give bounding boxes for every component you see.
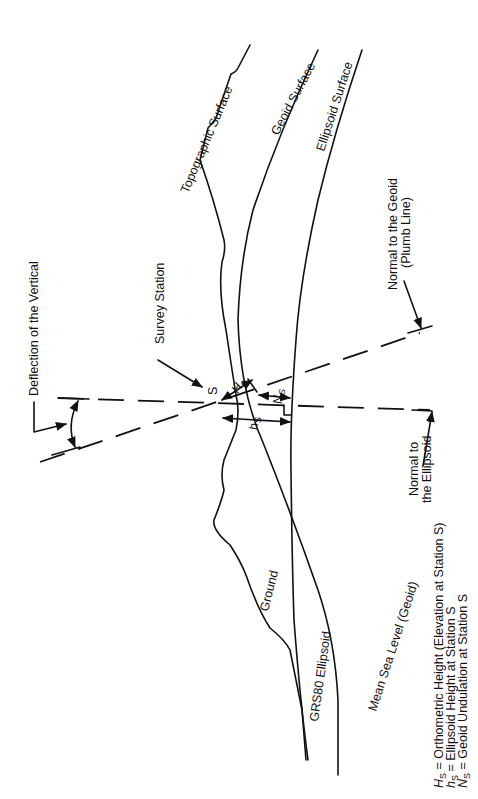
Ns-label: NS (271, 389, 287, 404)
survey-station-label: Survey Station (153, 263, 167, 344)
normal-to-ellipsoid-end-tick (412, 410, 432, 411)
normal-to-ellipsoid-label-line2: the Ellipsoid (420, 436, 434, 503)
deflection-angle-arc (71, 401, 78, 447)
normal-to-ellipsoid-line (58, 398, 430, 410)
geoid-surface-label: Geoid Surface (268, 60, 318, 137)
normal-to-geoid-label-line1: Normal to the Geoid (386, 178, 400, 290)
station-letter-S: S (206, 387, 220, 395)
deflection-tick-bottom (52, 447, 80, 455)
deflection-leader (34, 402, 66, 432)
legend: HS = Orthometric Height (Elevation at St… (432, 522, 472, 788)
legend-item-Ns: NS = Geoid Undulation at Station S (456, 594, 472, 788)
survey-station-arrow (158, 360, 202, 387)
geodesy-diagram: Topographic Surface Geoid Surface Ellips… (0, 0, 478, 799)
grs80-ellipsoid-label: GRS80 Ellipsoid (307, 630, 334, 722)
ground-label: Ground (257, 569, 281, 613)
ellipsoid-right-angle-mark (284, 405, 291, 415)
mean-sea-level-label: Mean Sea Level (Geoid) (366, 580, 421, 713)
deflection-of-vertical-label: Deflection of the Vertical (27, 261, 41, 396)
deflection-tick-top (58, 398, 89, 399)
normal-to-geoid-pointer (404, 281, 421, 328)
normal-to-geoid-label-line2: (Plumb Line) (399, 197, 413, 268)
normal-to-ellipsoid-label-line1: Normal to (407, 442, 421, 496)
svg-text:NS: NS (271, 389, 287, 404)
